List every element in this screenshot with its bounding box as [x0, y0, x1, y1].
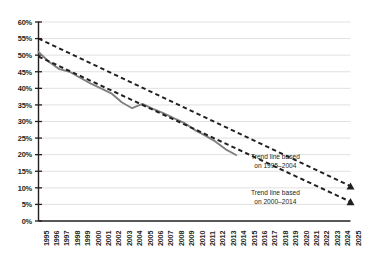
y-axis-tick-label: 30% [2, 117, 32, 126]
x-axis-tick-label: 1998 [73, 230, 82, 245]
y-axis-tick-label: 55% [2, 34, 32, 43]
x-axis-tick-label: 2001 [104, 230, 113, 245]
x-axis-tick-label: 2019 [291, 230, 300, 245]
y-axis-tick-label: 50% [2, 51, 32, 60]
x-axis-tick-label: 1995 [42, 230, 51, 245]
x-axis-tick-label: 2014 [239, 230, 248, 245]
x-axis-tick-label: 2006 [156, 230, 165, 245]
trend-line-1995-2004 [39, 39, 351, 187]
x-axis-tick-label: 2011 [208, 231, 217, 246]
annotation-line-2: on 1995–2004 [251, 162, 300, 171]
x-axis-tick-label: 1996 [52, 230, 61, 245]
x-axis-tick-label: 2012 [218, 230, 227, 245]
x-axis-tick-label: 1999 [83, 230, 92, 245]
x-axis-tick-label: 2002 [114, 230, 123, 245]
x-axis-tick-label: 2004 [135, 230, 144, 245]
x-axis-tick-label: 2023 [333, 230, 342, 245]
trend-endpoint-marker [347, 198, 355, 205]
annotation-line-2: on 2000–2014 [251, 198, 300, 207]
y-axis-tick-label: 25% [2, 134, 32, 143]
x-axis-tick-label: 2017 [270, 230, 279, 245]
annotation-line-1: Trend line based [251, 153, 300, 162]
y-axis-tick-label: 5% [2, 200, 32, 209]
x-axis-tick-label: 2016 [260, 230, 269, 245]
x-axis-tick-label: 2009 [187, 230, 196, 245]
y-axis-tick-label: 15% [2, 167, 32, 176]
annotation-line-1: Trend line based [251, 189, 300, 198]
x-axis-tick-label: 2008 [177, 230, 186, 245]
y-axis-tick-label: 20% [2, 150, 32, 159]
x-axis-tick-label: 2010 [198, 230, 207, 245]
x-axis-tick-label: 2021 [312, 230, 321, 245]
x-axis-tick-label: 1997 [62, 230, 71, 245]
y-axis-tick-label: 40% [2, 84, 32, 93]
y-axis-tick-label: 45% [2, 68, 32, 77]
x-axis-tick-label: 2003 [125, 230, 134, 245]
x-axis-tick-label: 2013 [229, 230, 238, 245]
y-axis-tick-label: 60% [2, 18, 32, 27]
x-axis-tick-label: 2018 [281, 230, 290, 245]
x-axis-tick-label: 2015 [250, 230, 259, 245]
trend-label-2000-2014: Trend line basedon 2000–2014 [251, 189, 300, 207]
x-axis-tick-label: 2022 [322, 230, 331, 245]
x-axis-tick-label: 2005 [146, 230, 155, 245]
y-axis-tick-label: 35% [2, 101, 32, 110]
trend-label-1995-2004: Trend line basedon 1995–2004 [251, 153, 300, 171]
x-axis-tick-label: 2007 [166, 230, 175, 245]
x-axis-tick-label: 2024 [343, 230, 352, 245]
x-axis-tick-label: 2020 [302, 230, 311, 245]
x-axis-tick-label: 2025 [354, 230, 363, 245]
y-axis-tick-label: 0% [2, 217, 32, 226]
chart-container: 0%5%10%15%20%25%30%35%40%45%50%55%60% 19… [0, 0, 371, 271]
trend-endpoint-marker [347, 182, 355, 189]
x-axis-tick-label: 2000 [94, 230, 103, 245]
y-axis-tick-label: 10% [2, 184, 32, 193]
